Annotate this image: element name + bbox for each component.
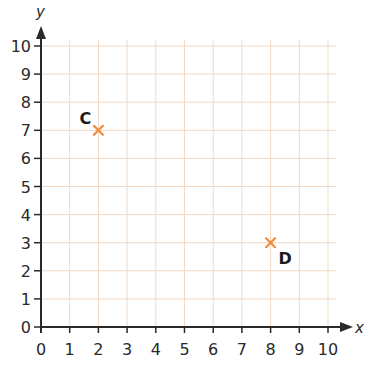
y-tick-label: 6 xyxy=(21,149,31,168)
axis-ticks: 012345678910012345678910 xyxy=(11,37,339,359)
coordinate-grid-chart: x y 012345678910012345678910 CD xyxy=(0,0,370,368)
x-tick-label: 0 xyxy=(36,340,46,359)
x-axis-label: x xyxy=(354,319,364,337)
x-tick-label: 4 xyxy=(151,340,161,359)
data-points: CD xyxy=(79,109,291,267)
x-tick-label: 6 xyxy=(208,340,218,359)
point-label: C xyxy=(79,109,91,128)
point-c: C xyxy=(79,109,103,135)
y-tick-label: 8 xyxy=(21,93,31,112)
x-tick-label: 10 xyxy=(318,340,338,359)
y-tick-label: 10 xyxy=(11,37,31,56)
x-tick-label: 7 xyxy=(237,340,247,359)
point-label: D xyxy=(279,249,292,268)
x-tick-label: 3 xyxy=(122,340,132,359)
y-tick-label: 4 xyxy=(21,206,31,225)
y-axis-label: y xyxy=(35,3,46,21)
y-tick-label: 1 xyxy=(21,290,31,309)
y-tick-label: 9 xyxy=(21,65,31,84)
x-axis-arrow-icon xyxy=(340,322,353,332)
x-tick-label: 1 xyxy=(65,340,75,359)
grid-lines xyxy=(41,40,336,327)
y-tick-label: 3 xyxy=(21,234,31,253)
x-tick-label: 8 xyxy=(266,340,276,359)
y-tick-label: 2 xyxy=(21,262,31,281)
axes: x y xyxy=(35,3,364,337)
x-tick-label: 5 xyxy=(179,340,189,359)
x-tick-label: 9 xyxy=(294,340,304,359)
x-tick-label: 2 xyxy=(93,340,103,359)
y-tick-label: 5 xyxy=(21,178,31,197)
y-tick-label: 7 xyxy=(21,121,31,140)
y-axis-arrow-icon xyxy=(36,26,46,39)
y-tick-label: 0 xyxy=(21,318,31,337)
